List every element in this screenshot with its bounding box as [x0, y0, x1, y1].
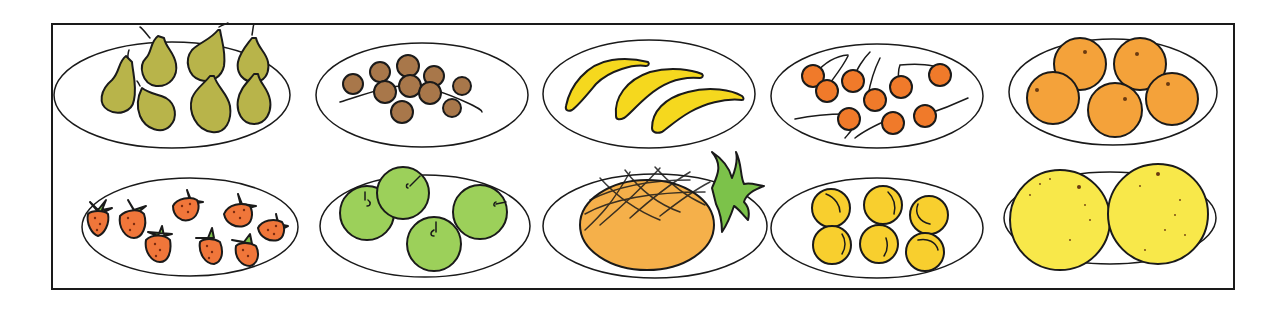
fruit-plates-illustration: .ol { stroke: #1a1a1a; stroke-width: 2; … [0, 0, 1284, 312]
plate-strawberries [82, 178, 298, 276]
plate-cherries [771, 44, 983, 148]
apricot-icon [812, 186, 948, 271]
plate-bananas [543, 40, 755, 148]
plate-apricots [771, 178, 983, 278]
plate-longans [316, 43, 528, 147]
plate-oranges [1009, 38, 1217, 145]
plate-apples [320, 167, 530, 277]
plate-pineapple [543, 152, 767, 278]
plate-grapefruits [1004, 164, 1216, 270]
plate-pears [54, 23, 290, 148]
